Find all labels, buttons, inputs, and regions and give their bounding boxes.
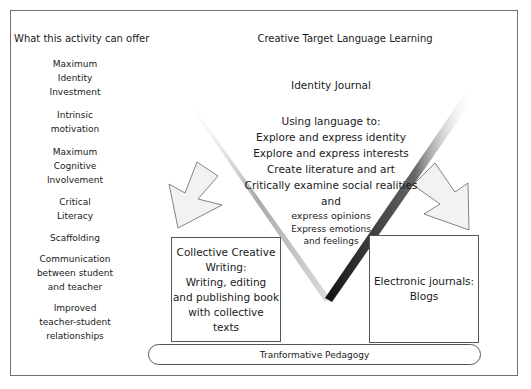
- box-line: and publishing book: [173, 290, 279, 305]
- offer-line: Improved: [20, 301, 130, 315]
- language-uses-list: Using language to: Explore and express i…: [226, 113, 436, 247]
- offer-item-improved-relationships: Improved teacher-student relationships: [20, 301, 130, 343]
- collective-creative-writing-box: Collective Creative Writing: Writing, ed…: [171, 237, 281, 342]
- use-item: and: [226, 193, 436, 209]
- main-title: Creative Target Language Learning: [220, 33, 470, 44]
- offer-line: Maximum: [20, 57, 130, 71]
- offer-line: Intrinsic: [20, 108, 130, 122]
- use-item: express opinions: [226, 209, 436, 223]
- arrow-down-left-icon: [169, 162, 222, 228]
- use-item: Critically examine social realities: [226, 177, 436, 193]
- box-line: Writing:: [173, 260, 279, 275]
- offer-line: and teacher: [20, 280, 130, 294]
- use-item: Explore and express interests: [226, 145, 436, 161]
- electronic-journals-box: Electronic journals: Blogs: [369, 235, 479, 343]
- use-item: Explore and express identity: [226, 129, 436, 145]
- offer-line: Communication: [20, 252, 130, 266]
- offer-line: motivation: [20, 122, 130, 136]
- offer-line: Literacy: [20, 209, 130, 223]
- offer-item-communication: Communication between student and teache…: [20, 252, 130, 294]
- offer-line: Involvement: [20, 173, 130, 187]
- offer-item-identity-investment: Maximum Identity Investment: [20, 57, 130, 99]
- offer-line: between student: [20, 266, 130, 280]
- identity-journal-title: Identity Journal: [256, 79, 406, 91]
- offer-line: Maximum: [20, 145, 130, 159]
- box-line: texts: [173, 320, 279, 335]
- offer-item-cognitive-involvement: Maximum Cognitive Involvement: [20, 145, 130, 187]
- offer-line: Scaffolding: [20, 231, 130, 245]
- box-line: Electronic journals:: [374, 274, 474, 289]
- offer-item-critical-literacy: Critical Literacy: [20, 195, 130, 223]
- offer-line: Critical: [20, 195, 130, 209]
- offer-line: Investment: [20, 85, 130, 99]
- offer-line: relationships: [20, 329, 130, 343]
- use-item: Create literature and art: [226, 161, 436, 177]
- box-line: Blogs: [374, 289, 474, 304]
- offer-line: Identity: [20, 71, 130, 85]
- box-line: with collective: [173, 305, 279, 320]
- offer-item-scaffolding: Scaffolding: [20, 231, 130, 245]
- left-column-title: What this activity can offer: [14, 33, 149, 44]
- offer-line: teacher-student: [20, 315, 130, 329]
- offer-item-intrinsic-motivation: Intrinsic motivation: [20, 108, 130, 136]
- offer-line: Cognitive: [20, 159, 130, 173]
- box-line: Writing, editing: [173, 275, 279, 290]
- box-line: Collective Creative: [173, 245, 279, 260]
- transformative-pedagogy-base: Tranformative Pedagogy: [148, 344, 481, 365]
- uses-intro: Using language to:: [226, 113, 436, 129]
- use-item: Express emotions: [226, 223, 436, 235]
